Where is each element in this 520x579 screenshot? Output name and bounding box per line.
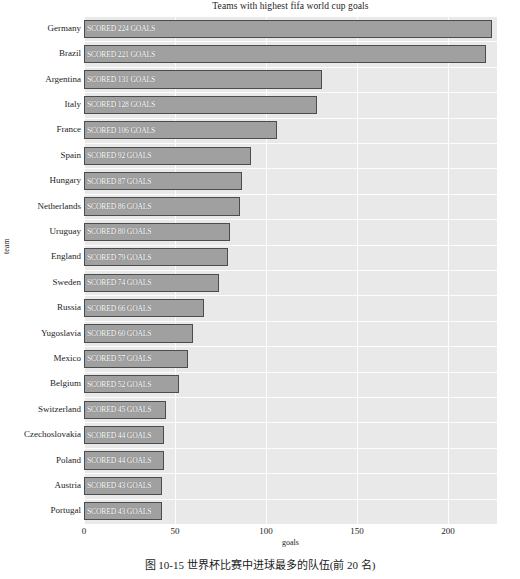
gridline-horizontal bbox=[84, 295, 497, 296]
y-tick-label-poland: Poland bbox=[4, 456, 84, 465]
bar-italy: SCORED 128 GOALS bbox=[84, 96, 317, 114]
bar-russia: SCORED 66 GOALS bbox=[84, 299, 204, 317]
y-tick-label-uruguay: Uruguay bbox=[4, 227, 84, 236]
bar-value-label: SCORED 106 GOALS bbox=[85, 126, 155, 135]
y-tick-label-portugal: Portugal bbox=[4, 506, 84, 515]
x-tick-label-100: 100 bbox=[259, 526, 273, 536]
bar-value-label: SCORED 87 GOALS bbox=[85, 177, 151, 186]
bar-value-label: SCORED 131 GOALS bbox=[85, 75, 155, 84]
bar-value-label: SCORED 45 GOALS bbox=[85, 405, 151, 414]
gridline-horizontal bbox=[84, 270, 497, 271]
bar-yugoslavia: SCORED 60 GOALS bbox=[84, 324, 193, 342]
bar-value-label: SCORED 224 GOALS bbox=[85, 24, 155, 33]
y-tick-label-mexico: Mexico bbox=[4, 354, 84, 363]
bar-switzerland: SCORED 45 GOALS bbox=[84, 401, 166, 419]
y-axis-title: team bbox=[2, 238, 11, 254]
bar-value-label: SCORED 221 GOALS bbox=[85, 50, 155, 59]
y-tick-label-netherlands: Netherlands bbox=[4, 202, 84, 211]
bar-uruguay: SCORED 80 GOALS bbox=[84, 223, 230, 241]
bar-value-label: SCORED 44 GOALS bbox=[85, 431, 151, 440]
gridline-horizontal bbox=[84, 397, 497, 398]
bar-belgium: SCORED 52 GOALS bbox=[84, 375, 179, 393]
gridline-horizontal bbox=[84, 346, 497, 347]
x-axis-title: goals bbox=[84, 538, 497, 547]
bar-france: SCORED 106 GOALS bbox=[84, 121, 277, 139]
y-tick-label-switzerland: Switzerland bbox=[4, 405, 84, 414]
gridline-horizontal bbox=[84, 372, 497, 373]
y-axis-tick-labels: GermanyBrazilArgentinaItalyFranceSpainHu… bbox=[0, 16, 84, 524]
y-tick-label-yugoslavia: Yugoslavia bbox=[4, 329, 84, 338]
gridline-horizontal bbox=[84, 219, 497, 220]
y-tick-label-sweden: Sweden bbox=[4, 278, 84, 287]
x-tick-label-0: 0 bbox=[82, 526, 87, 536]
bar-value-label: SCORED 86 GOALS bbox=[85, 202, 151, 211]
bar-spain: SCORED 92 GOALS bbox=[84, 147, 251, 165]
gridline-horizontal bbox=[84, 448, 497, 449]
bar-netherlands: SCORED 86 GOALS bbox=[84, 197, 240, 215]
bar-value-label: SCORED 44 GOALS bbox=[85, 456, 151, 465]
y-tick-label-hungary: Hungary bbox=[4, 176, 84, 185]
y-tick-label-france: France bbox=[4, 125, 84, 134]
x-tick-label-50: 50 bbox=[170, 526, 179, 536]
gridline-horizontal bbox=[84, 499, 497, 500]
bar-value-label: SCORED 57 GOALS bbox=[85, 354, 151, 363]
bar-sweden: SCORED 74 GOALS bbox=[84, 274, 219, 292]
y-tick-label-spain: Spain bbox=[4, 151, 84, 160]
bar-mexico: SCORED 57 GOALS bbox=[84, 350, 188, 368]
gridline-horizontal bbox=[84, 473, 497, 474]
bar-value-label: SCORED 43 GOALS bbox=[85, 507, 151, 516]
x-tick-label-150: 150 bbox=[350, 526, 364, 536]
gridline-horizontal bbox=[84, 16, 497, 17]
y-tick-label-argentina: Argentina bbox=[4, 75, 84, 84]
bar-austria: SCORED 43 GOALS bbox=[84, 477, 162, 495]
bar-england: SCORED 79 GOALS bbox=[84, 248, 228, 266]
bar-czechoslovakia: SCORED 44 GOALS bbox=[84, 426, 164, 444]
gridline-horizontal bbox=[84, 194, 497, 195]
bar-value-label: SCORED 92 GOALS bbox=[85, 151, 151, 160]
gridline-horizontal bbox=[84, 41, 497, 42]
bar-value-label: SCORED 128 GOALS bbox=[85, 100, 155, 109]
gridline-horizontal bbox=[84, 67, 497, 68]
gridline-horizontal bbox=[84, 245, 497, 246]
y-tick-label-italy: Italy bbox=[4, 100, 84, 109]
bar-value-label: SCORED 74 GOALS bbox=[85, 278, 151, 287]
y-tick-label-brazil: Brazil bbox=[4, 49, 84, 58]
y-tick-label-germany: Germany bbox=[4, 24, 84, 33]
bar-poland: SCORED 44 GOALS bbox=[84, 451, 164, 469]
y-tick-label-england: England bbox=[4, 252, 84, 261]
y-tick-label-russia: Russia bbox=[4, 303, 84, 312]
plot-area: SCORED 224 GOALSSCORED 221 GOALSSCORED 1… bbox=[84, 16, 497, 524]
chart-title: Teams with highest fifa world cup goals bbox=[84, 1, 497, 11]
bar-portugal: SCORED 43 GOALS bbox=[84, 502, 162, 520]
gridline-horizontal bbox=[84, 168, 497, 169]
bar-value-label: SCORED 66 GOALS bbox=[85, 304, 151, 313]
figure-caption: 图 10-15 世界杯比赛中进球最多的队伍(前 20 名) bbox=[0, 556, 520, 572]
bar-hungary: SCORED 87 GOALS bbox=[84, 172, 242, 190]
gridline-horizontal bbox=[84, 422, 497, 423]
x-tick-label-200: 200 bbox=[441, 526, 455, 536]
bar-value-label: SCORED 52 GOALS bbox=[85, 380, 151, 389]
gridline-horizontal bbox=[84, 321, 497, 322]
y-tick-label-austria: Austria bbox=[4, 481, 84, 490]
bar-value-label: SCORED 79 GOALS bbox=[85, 253, 151, 262]
gridline-horizontal bbox=[84, 143, 497, 144]
bar-value-label: SCORED 60 GOALS bbox=[85, 329, 151, 338]
bar-value-label: SCORED 80 GOALS bbox=[85, 227, 151, 236]
y-tick-label-czechoslovakia: Czechoslovakia bbox=[4, 430, 84, 439]
gridline-horizontal bbox=[84, 92, 497, 93]
gridline-horizontal bbox=[84, 118, 497, 119]
bar-germany: SCORED 224 GOALS bbox=[84, 20, 492, 38]
figure-container: Teams with highest fifa world cup goals … bbox=[0, 0, 520, 579]
y-tick-label-belgium: Belgium bbox=[4, 379, 84, 388]
bar-brazil: SCORED 221 GOALS bbox=[84, 45, 486, 63]
bar-value-label: SCORED 43 GOALS bbox=[85, 481, 151, 490]
bar-argentina: SCORED 131 GOALS bbox=[84, 70, 322, 88]
